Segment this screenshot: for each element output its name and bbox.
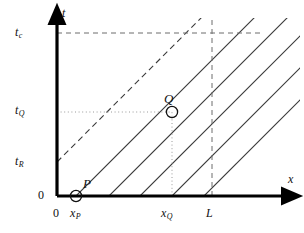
- characteristic-dashed-from-tR: [57, 17, 202, 162]
- y-tick-sub-tQ: Q: [19, 109, 25, 118]
- x-tick-label-xQ: xQ: [161, 207, 172, 221]
- y-tick-sub-tR: R: [19, 160, 24, 169]
- x-tick-base-xP: x: [70, 206, 75, 220]
- y-tick-sub-tc: c: [19, 31, 23, 40]
- y-tick-label-tR: tR: [15, 155, 24, 169]
- y-axis-origin-label: 0: [38, 189, 44, 201]
- spacetime-diagram-figure: t x tc tQ tR 0 0 xP xQ L P Q: [0, 0, 304, 233]
- y-tick-base-tR: t: [15, 154, 18, 168]
- event-label-Q: Q: [164, 92, 173, 105]
- x-tick-base-xQ: x: [161, 206, 166, 220]
- worldline-1-through-P: [76, 17, 255, 196]
- y-tick-base-tQ: t: [15, 103, 18, 117]
- y-tick-label-tc: tc: [15, 26, 22, 40]
- x-axis-label: x: [288, 173, 293, 185]
- worldline-4: [172, 64, 304, 196]
- x-tick-base-L: L: [206, 206, 213, 220]
- y-axis-label: t: [62, 7, 65, 19]
- x-tick-label-xP: xP: [70, 207, 81, 221]
- x-tick-sub-xP: P: [76, 212, 81, 221]
- worldline-3-through-Q: [140, 32, 304, 196]
- plot-canvas: [0, 0, 304, 233]
- x-tick-sub-xQ: Q: [167, 212, 173, 221]
- x-tick-label-L: L: [206, 207, 213, 219]
- event-label-P: P: [83, 177, 91, 190]
- y-tick-base-tc: t: [15, 25, 18, 39]
- x-axis-origin-label: 0: [53, 207, 59, 219]
- y-tick-label-tQ: tQ: [15, 104, 24, 118]
